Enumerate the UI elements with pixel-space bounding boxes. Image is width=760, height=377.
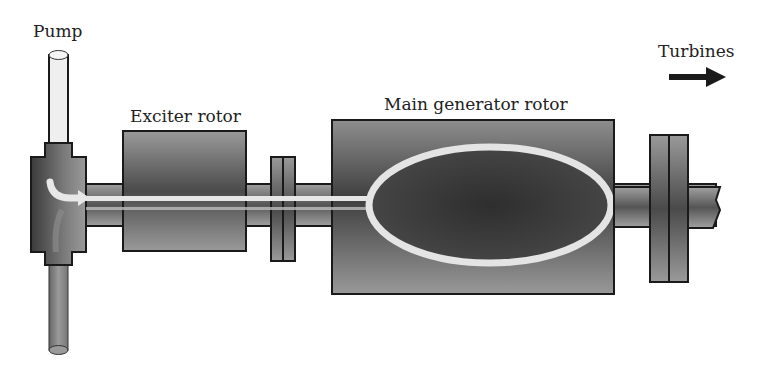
shaft-end [688, 187, 720, 228]
turbines-label: Turbines [658, 41, 734, 61]
rotor-cooling-loop [369, 147, 611, 263]
exciter-rotor-label: Exciter rotor [130, 106, 242, 126]
pump-inlet-pipe [49, 51, 68, 148]
generator-cooling-diagram: Pump Exciter rotor Main generator rotor … [0, 0, 760, 377]
pump-outlet-pipe [49, 262, 68, 355]
arrow-right-icon [669, 67, 726, 87]
main-generator-rotor-label: Main generator rotor [384, 94, 569, 114]
shaft-segment [614, 187, 650, 227]
exciter-rotor [123, 131, 246, 251]
pump-label: Pump [33, 21, 83, 41]
coupling-2 [650, 135, 688, 282]
